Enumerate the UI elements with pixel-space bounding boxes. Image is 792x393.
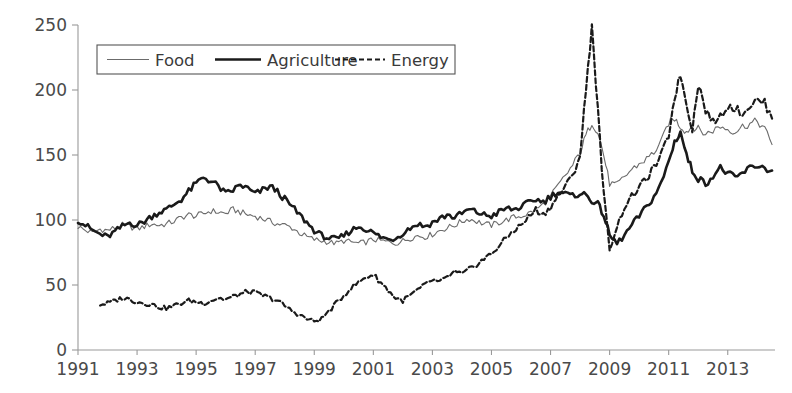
y-tick-label: 150	[35, 145, 67, 165]
x-tick-label: 2001	[352, 359, 395, 379]
x-tick-label: 2011	[647, 359, 690, 379]
x-tick-label: 2005	[470, 359, 513, 379]
y-axis: 050100150200250	[35, 15, 78, 360]
x-tick-label: 2003	[411, 359, 454, 379]
y-tick-label: 50	[45, 275, 67, 295]
x-tick-label: 1991	[56, 359, 99, 379]
x-tick-label: 1999	[293, 359, 336, 379]
x-tick-label: 2007	[529, 359, 572, 379]
y-tick-label: 100	[35, 210, 67, 230]
x-tick-label: 1997	[234, 359, 277, 379]
y-tick-label: 0	[56, 340, 67, 360]
x-tick-label: 1995	[175, 359, 218, 379]
commodity-price-index-chart: 050100150200250 199119931995199719992001…	[0, 0, 792, 393]
chart-legend: FoodAgricultureEnergy	[97, 45, 455, 74]
legend-label-food: Food	[155, 51, 195, 70]
x-tick-label: 1993	[115, 359, 158, 379]
chart-canvas: 050100150200250 199119931995199719992001…	[0, 0, 792, 393]
series-line-agriculture	[78, 131, 772, 244]
x-tick-label: 2009	[588, 359, 631, 379]
y-tick-label: 250	[35, 15, 67, 35]
x-axis: 1991199319951997199920012003200520072009…	[56, 350, 775, 379]
y-tick-label: 200	[35, 80, 67, 100]
x-tick-label: 2013	[706, 359, 749, 379]
legend-label-energy: Energy	[391, 51, 449, 70]
